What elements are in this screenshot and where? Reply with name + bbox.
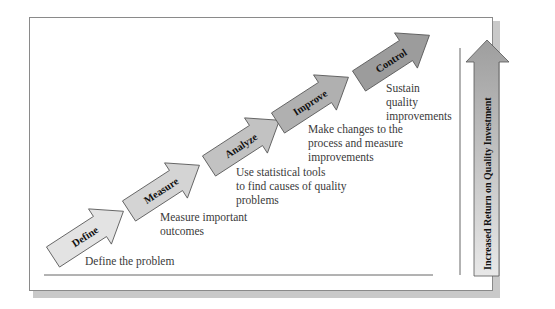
description-line: improvements	[308, 150, 403, 164]
description-line: outcomes	[160, 224, 247, 238]
return-arrow-label: Increased Return on Quality Investment	[482, 97, 493, 270]
description-line: Use statistical tools	[236, 165, 347, 179]
description-line: to find causes of quality	[236, 179, 347, 193]
description-line: Make changes to the	[308, 122, 403, 136]
description-line: Measure important	[160, 210, 247, 224]
return-arrow: Increased Return on Quality Investment	[466, 40, 509, 276]
diagram-canvas: Define Measure Analyze Improve Control I…	[0, 0, 555, 309]
step-description-control: Sustain quality improvements	[386, 81, 452, 123]
diagram-svg: Define Measure Analyze Improve Control I…	[0, 0, 555, 309]
description-line: quality	[386, 95, 452, 109]
step-description-define: Define the problem	[85, 254, 174, 268]
description-line: Sustain	[386, 81, 452, 95]
description-line: process and measure	[308, 136, 403, 150]
description-line: improvements	[386, 109, 452, 123]
step-description-measure: Measure important outcomes	[160, 210, 247, 238]
description-line: problems	[236, 193, 347, 207]
description-line: Define the problem	[85, 254, 174, 268]
step-description-analyze: Use statistical tools to find causes of …	[236, 165, 347, 207]
step-description-improve: Make changes to the process and measure …	[308, 122, 403, 164]
